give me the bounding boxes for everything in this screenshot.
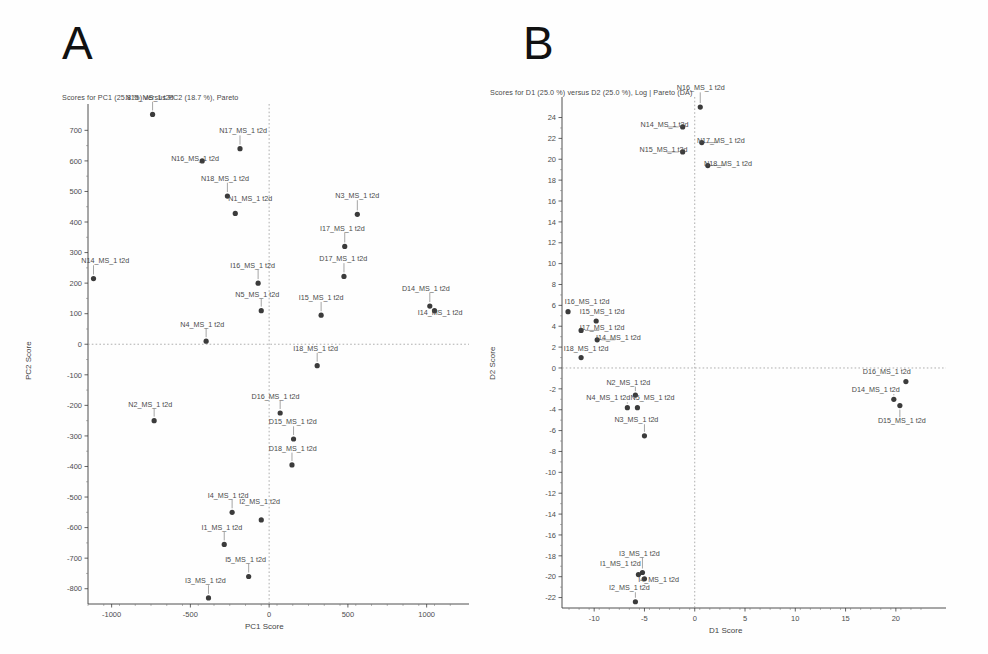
panel-a: A Scores for PC1 (25.8 %) versus PC2 (18… bbox=[0, 0, 494, 654]
point-label: I17_MS_1 t2d bbox=[320, 224, 365, 233]
y-tick-label: -700 bbox=[67, 554, 82, 563]
data-point: D16_MS_1 t2d bbox=[251, 392, 299, 416]
y-tick-label: 2 bbox=[552, 343, 556, 352]
point-label: I3_MS_1 t2d bbox=[185, 576, 226, 585]
data-point: I14_MS_1 t2d bbox=[418, 308, 463, 317]
y-tick-label: 500 bbox=[69, 187, 82, 196]
data-point: D17_MS_1 t2d bbox=[319, 254, 367, 279]
y-axis-title-b: D2 Score bbox=[488, 347, 497, 380]
point-label: I18_MS_1 t2d bbox=[293, 344, 338, 353]
point-label: N16_MS_1 t2d bbox=[171, 154, 219, 163]
data-point: N16_MS_1 t2d bbox=[171, 154, 219, 164]
data-point: D14_MS_1 t2d bbox=[402, 284, 450, 309]
data-point: D15_MS_1 t2d bbox=[269, 417, 317, 441]
data-point: I18_MS_1 t2d bbox=[564, 344, 609, 360]
point-label: N18_MS_1 t2d bbox=[704, 159, 752, 168]
data-point: N15_MS_1 t2d bbox=[640, 145, 688, 155]
data-point: I5_MS_1 t2d bbox=[225, 555, 266, 579]
point-label: N17_MS_1 t2d bbox=[219, 126, 267, 135]
data-point: N16_MS_1 t2d bbox=[677, 83, 725, 109]
data-point: I15_MS_1 t2d bbox=[299, 293, 344, 318]
point-label: I17_MS_1 t2d bbox=[580, 323, 625, 332]
data-point: D14_MS_1 t2d bbox=[852, 385, 900, 402]
data-point: N5_MS_1 t2d bbox=[631, 393, 675, 410]
data-point: D18_MS_1 t2d bbox=[269, 444, 317, 468]
point-label: I14_MS_1 t2d bbox=[418, 308, 463, 317]
y-tick-label: 0 bbox=[552, 364, 556, 373]
data-point: N4_MS_1 t2d bbox=[586, 393, 630, 410]
point-label: I2_MS_1 t2d bbox=[239, 497, 280, 506]
y-tick-label: -500 bbox=[67, 493, 82, 502]
point-label: I18_MS_1 t2d bbox=[564, 344, 609, 353]
data-point: I2_MS_1 t2d bbox=[239, 497, 280, 522]
data-point: I1_MS_1 t2d bbox=[202, 523, 243, 547]
point-label: I5_MS_1 t2d bbox=[225, 555, 266, 564]
point-label: N4_MS_1 t2d bbox=[180, 320, 224, 329]
y-tick-label: 20 bbox=[548, 155, 556, 164]
y-tick-label: -14 bbox=[545, 510, 556, 519]
x-tick-label: 10 bbox=[791, 614, 799, 623]
point-label: D17_MS_1 t2d bbox=[319, 254, 367, 263]
y-tick-label: -2 bbox=[549, 385, 556, 394]
y-tick-label: 22 bbox=[548, 134, 556, 143]
point-label: I2_MS_1 t2d bbox=[609, 583, 650, 592]
y-tick-label: -6 bbox=[549, 426, 556, 435]
data-point: N17_MS_1 t2d bbox=[697, 136, 745, 146]
y-tick-label: 24 bbox=[548, 113, 556, 122]
point-label: I14_MS_1 t2d bbox=[596, 333, 641, 342]
data-point: I2_MS_1 t2d bbox=[609, 583, 650, 604]
x-tick-label: 15 bbox=[841, 614, 849, 623]
data-point: I14_MS_1 t2d bbox=[595, 333, 641, 343]
data-point: D15_MS_1 t2d bbox=[878, 403, 926, 425]
point-label: D15_MS_1 t2d bbox=[878, 416, 926, 425]
data-point: D16_MS_1 t2d bbox=[863, 367, 911, 384]
x-tick-label: -1000 bbox=[102, 610, 121, 619]
y-tick-label: -100 bbox=[67, 371, 82, 380]
data-point: N15_MS_1 t2d bbox=[125, 93, 173, 117]
point-label: N2_MS_1 t2d bbox=[128, 400, 172, 409]
y-tick-label: 100 bbox=[69, 309, 82, 318]
x-axis-title-a: PC1 Score bbox=[245, 622, 284, 631]
point-label: D14_MS_1 t2d bbox=[402, 284, 450, 293]
data-point: N14_MS_1 t2d bbox=[641, 120, 689, 130]
point-label: N14_MS_1 t2d bbox=[641, 120, 689, 129]
data-point: I18_MS_1 t2d bbox=[293, 344, 338, 368]
point-label: I3_MS_1 t2d bbox=[619, 549, 660, 558]
x-tick-label: -5 bbox=[641, 614, 648, 623]
data-point: I16_MS_1 t2d bbox=[230, 261, 275, 286]
data-point: N17_MS_1 t2d bbox=[219, 126, 267, 151]
y-tick-label: 12 bbox=[548, 238, 556, 247]
point-label: I15_MS_1 t2d bbox=[580, 307, 625, 316]
point-label: N3_MS_1 t2d bbox=[335, 191, 379, 200]
y-tick-label: 18 bbox=[548, 176, 556, 185]
data-point: N18_MS_1 t2d bbox=[704, 159, 752, 169]
data-point: N2_MS_1 t2d bbox=[128, 400, 172, 423]
y-tick-label: 14 bbox=[548, 218, 556, 227]
y-tick-label: -600 bbox=[67, 523, 82, 532]
point-label: I16_MS_1 t2d bbox=[565, 297, 610, 306]
scatter-plot-b: -22-20-18-16-14-12-10-8-6-4-202468101214… bbox=[494, 0, 988, 654]
y-tick-label: 10 bbox=[548, 259, 556, 268]
point-label: N15_MS_1 t2d bbox=[640, 145, 688, 154]
y-tick-label: 400 bbox=[69, 218, 82, 227]
data-point: I3_MS_1 t2d bbox=[185, 576, 226, 600]
data-point: N3_MS_1 t2d bbox=[614, 415, 658, 438]
data-point: N3_MS_1 t2d bbox=[335, 191, 379, 217]
x-tick-label: 500 bbox=[342, 610, 355, 619]
point-label: D14_MS_1 t2d bbox=[852, 385, 900, 394]
y-tick-label: -16 bbox=[545, 531, 556, 540]
point-label: N5_MS_1 t2d bbox=[631, 393, 675, 402]
x-tick-label: -500 bbox=[183, 610, 198, 619]
y-tick-label: -4 bbox=[549, 405, 556, 414]
point-label: N3_MS_1 t2d bbox=[614, 415, 658, 424]
point-label: N2_MS_1 t2d bbox=[606, 378, 650, 387]
point-label: I16_MS_1 t2d bbox=[230, 261, 275, 270]
y-tick-label: 16 bbox=[548, 197, 556, 206]
y-tick-label: 700 bbox=[69, 126, 82, 135]
point-label: I1_MS_1 t2d bbox=[600, 559, 641, 568]
data-point: I1_MS_1 t2d bbox=[600, 559, 641, 577]
y-tick-label: -18 bbox=[545, 552, 556, 561]
point-label: N15_MS_1 t2d bbox=[125, 93, 173, 102]
y-tick-label: 300 bbox=[69, 248, 82, 257]
data-point: N5_MS_1 t2d bbox=[235, 290, 279, 313]
